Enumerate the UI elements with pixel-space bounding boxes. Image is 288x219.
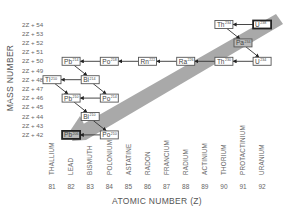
nuclide-U234: U234 <box>253 57 271 65</box>
decay-arrow-beta <box>93 84 106 94</box>
y-tick-label: 2Z + 52 <box>22 39 44 46</box>
y-tick-label: 2Z + 50 <box>22 57 44 64</box>
nuclide-Rn222: Rn222 <box>139 57 157 65</box>
nuclide-Pb214: Pb214 <box>62 57 80 65</box>
nuclide-U238: U238 <box>253 21 271 29</box>
decay-arrow-beta <box>55 84 68 94</box>
x-tick-atomic-number: 91 <box>239 183 247 190</box>
y-axis-title: MASS NUMBER <box>5 45 15 112</box>
x-tick-atomic-number: 82 <box>67 183 75 190</box>
nuclide-Po210: Po210 <box>100 131 118 139</box>
x-tick-atomic-number: 88 <box>182 183 190 190</box>
x-tick-atomic-number: 81 <box>48 183 56 190</box>
nuclide-Pb210: Pb210 <box>62 94 80 102</box>
x-tick-element-name: THORIUM <box>220 144 227 175</box>
x-tick-atomic-number: 87 <box>163 183 171 190</box>
x-tick-element-name: ACTINIUM <box>201 143 208 175</box>
x-tick-element-name: THALLIUM <box>48 142 55 175</box>
nuclide-Th230: Th230 <box>215 57 233 65</box>
decay-arrow-beta <box>74 65 87 75</box>
x-tick-element-name: LEAD <box>67 157 74 175</box>
y-tick-label: 2Z + 51 <box>22 48 44 55</box>
x-tick-element-name: BISMUTH <box>86 145 93 175</box>
y-axis-ticks: 2Z + 542Z + 532Z + 522Z + 512Z + 502Z + … <box>22 21 44 138</box>
y-tick-label: 2Z + 49 <box>22 67 44 74</box>
x-tick-atomic-number: 83 <box>87 183 95 190</box>
decay-arrow-beta <box>246 47 259 57</box>
x-tick-atomic-number: 89 <box>201 183 209 190</box>
y-tick-label: 2Z + 47 <box>22 85 44 92</box>
decay-band <box>72 14 283 141</box>
nuclide-Ra226: Ra226 <box>177 57 195 65</box>
y-tick-label: 2Z + 46 <box>22 94 44 101</box>
y-tick-label: 2Z + 42 <box>22 131 44 138</box>
x-axis-title: ATOMIC NUMBER (Z) <box>112 196 202 206</box>
x-tick-atomic-number: 86 <box>144 183 152 190</box>
x-tick-element-name: FRANCIUM <box>163 140 170 175</box>
x-tick-element-name: URANIUM <box>258 144 265 175</box>
x-tick-element-name: RADIUM <box>182 149 189 175</box>
decay-series-diagram: 2Z + 542Z + 532Z + 522Z + 512Z + 502Z + … <box>0 0 288 219</box>
y-tick-label: 2Z + 44 <box>22 113 44 120</box>
x-tick-element-name: PROTACTINIUM <box>239 125 246 175</box>
nuclide-Bi214: Bi214 <box>81 76 99 84</box>
nuclide-Bi210: Bi210 <box>81 113 99 121</box>
nuclide-Th234: Th234 <box>215 21 233 29</box>
decay-arrow-beta <box>227 29 240 39</box>
nuclide-Tl210: Tl210 <box>43 76 61 84</box>
y-tick-label: 2Z + 43 <box>22 122 44 129</box>
y-tick-label: 2Z + 45 <box>22 103 44 110</box>
x-tick-element-name: RADON <box>144 151 151 175</box>
x-tick-atomic-number: 92 <box>258 183 266 190</box>
decay-arrow-beta <box>74 102 87 112</box>
y-tick-label: 2Z + 54 <box>22 21 44 28</box>
nuclide-Po218: Po218 <box>100 57 118 65</box>
nuclide-Pb206: Pb206 <box>62 131 80 139</box>
x-tick-element-name: ASTATINE <box>125 144 132 175</box>
y-tick-label: 2Z + 48 <box>22 76 44 83</box>
nuclide-Pa234: Pa234 <box>234 39 252 47</box>
x-tick-atomic-number: 84 <box>106 183 114 190</box>
y-tick-label: 2Z + 53 <box>22 30 44 37</box>
nuclide-Po214: Po214 <box>100 94 118 102</box>
x-tick-atomic-number: 85 <box>125 183 133 190</box>
x-tick-element-name: POLONIUM <box>106 140 113 175</box>
x-tick-atomic-number: 90 <box>220 183 228 190</box>
